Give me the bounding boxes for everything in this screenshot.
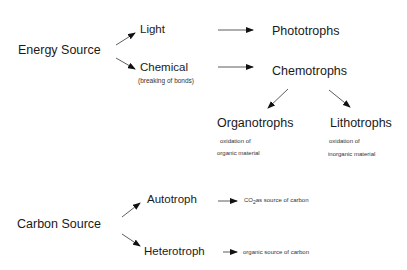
- arrow-chemotrophs-to-lithotrophs: [329, 90, 350, 107]
- chemotrophs-label: Chemotrophs: [272, 65, 347, 78]
- carbon-source-label: Carbon Source: [17, 218, 101, 231]
- arrow-chemotrophs-to-organotrophs: [268, 89, 288, 108]
- arrow-energy-to-light: [116, 33, 135, 45]
- chemical-label: Chemical: [140, 62, 188, 74]
- organotrophs-note-line2: organic material: [217, 150, 260, 156]
- arrow-carbon-to-heterotroph: [122, 234, 140, 246]
- light-label: Light: [140, 24, 165, 36]
- autotroph-label: Autotroph: [147, 194, 197, 206]
- chemical-note: (breaking of bonds): [138, 78, 194, 85]
- arrow-energy-to-chemical: [116, 58, 135, 69]
- autotroph-note: CO2as source of carbon: [244, 197, 308, 205]
- lithotrophs-note-line1: oxidation of: [329, 138, 360, 144]
- organotrophs-note-line1: oxidation of: [220, 138, 251, 144]
- arrow-carbon-to-autotroph: [122, 203, 140, 217]
- heterotroph-note: organic source of carbon: [243, 249, 309, 255]
- autotroph-note-rest: as source of carbon: [256, 197, 309, 203]
- organotrophs-label: Organotrophs: [217, 117, 293, 130]
- heterotroph-label: Heterotroph: [144, 246, 205, 258]
- co-text: CO: [244, 197, 253, 203]
- lithotrophs-note-line2: inorganic material: [328, 151, 375, 157]
- phototrophs-label: Phototrophs: [272, 25, 339, 38]
- energy-source-label: Energy Source: [18, 44, 101, 57]
- lithotrophs-label: Lithotrophs: [330, 117, 392, 130]
